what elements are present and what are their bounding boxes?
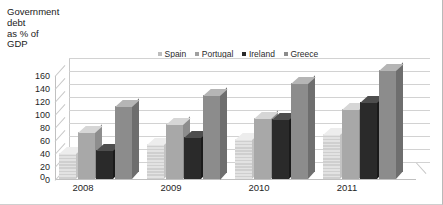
legend-swatch-icon (284, 52, 288, 56)
bar-greece-2008[interactable] (115, 106, 132, 179)
x-tick-2009: 2009 (141, 182, 201, 193)
bar-portugal-2009[interactable] (166, 124, 183, 179)
bar-face (115, 106, 132, 179)
bar-side (220, 87, 227, 179)
bar-face (360, 102, 377, 179)
y-tick-80: 80 (24, 123, 50, 133)
y-tick-140: 140 (24, 84, 50, 94)
plot-area (55, 58, 430, 180)
bar-portugal-2011[interactable] (342, 109, 359, 179)
bar-portugal-2010[interactable] (254, 118, 271, 179)
bar-face (147, 144, 164, 179)
bar-face (184, 137, 201, 179)
chart-title: Government debt as % of GDP (7, 7, 107, 50)
y-axis-zero-label: 0 (40, 172, 45, 182)
bar-ireland-2010[interactable] (272, 119, 289, 179)
chart-figure: Government debt as % of GDP SpainPortuga… (0, 0, 443, 205)
bar-spain-2010[interactable] (235, 139, 252, 179)
bar-side (308, 75, 315, 179)
bar-face (203, 95, 220, 180)
y-tick-40: 40 (24, 149, 50, 159)
bar-face (254, 118, 271, 179)
bar-face (323, 134, 340, 179)
bar-greece-2009[interactable] (203, 95, 220, 180)
bar-ireland-2011[interactable] (360, 102, 377, 179)
y-tick-20: 20 (24, 162, 50, 172)
bar-face (235, 139, 252, 179)
legend-swatch-icon (195, 52, 199, 56)
bar-portugal-2008[interactable] (78, 132, 95, 179)
bar-ireland-2008[interactable] (96, 150, 113, 179)
x-axis-tick-labels: 2008200920102011 (55, 182, 430, 196)
bar-face (59, 153, 76, 179)
bar-face (96, 150, 113, 179)
bar-face (291, 83, 308, 179)
y-tick-160: 160 (24, 71, 50, 81)
y-tick-120: 120 (24, 97, 50, 107)
legend-swatch-icon (242, 52, 246, 56)
bar-spain-2011[interactable] (323, 134, 340, 179)
bar-side (132, 98, 139, 179)
bar-side (396, 63, 403, 179)
bar-face (342, 109, 359, 179)
bar-ireland-2009[interactable] (184, 137, 201, 179)
y-tick-60: 60 (24, 136, 50, 146)
y-axis-tick-labels: 160140120100806040200 (22, 58, 50, 183)
y-tick-100: 100 (24, 110, 50, 120)
x-tick-2011: 2011 (317, 182, 377, 193)
bar-greece-2011[interactable] (379, 70, 396, 179)
bar-face (379, 70, 396, 179)
bar-face (272, 119, 289, 179)
x-tick-2008: 2008 (53, 182, 113, 193)
bar-face (166, 124, 183, 179)
bar-series-group (55, 58, 430, 180)
bar-greece-2010[interactable] (291, 83, 308, 179)
x-tick-2010: 2010 (229, 182, 289, 193)
clipped-footer-text (150, 201, 440, 205)
bar-spain-2009[interactable] (147, 144, 164, 179)
bar-face (78, 132, 95, 179)
y-tick-0: 0 (24, 175, 50, 185)
bar-spain-2008[interactable] (59, 153, 76, 179)
legend-swatch-icon (158, 52, 162, 56)
